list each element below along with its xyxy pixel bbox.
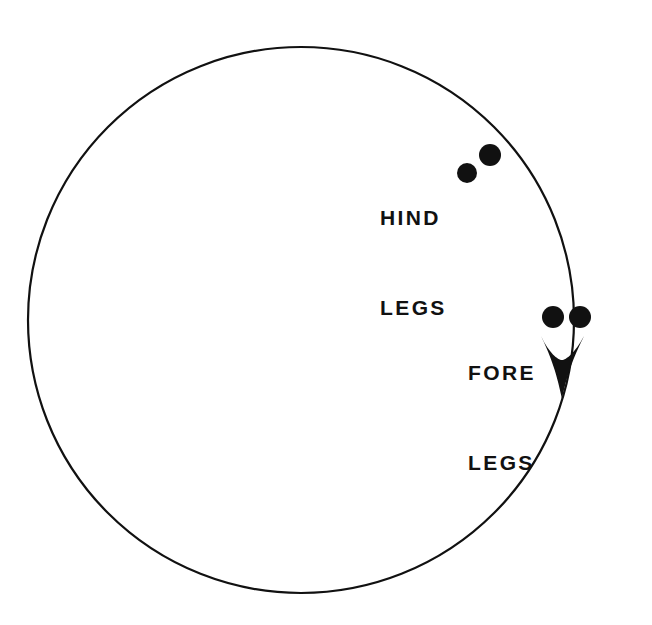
fore-legs-label-line2: LEGS (468, 448, 536, 478)
fore-legs-label: FORE LEGS (468, 298, 536, 538)
hind-leg-marker-outer (479, 144, 501, 166)
diagram-svg (0, 0, 652, 625)
fore-leg-marker-inner (542, 306, 564, 328)
fore-leg-marker-outer (569, 306, 591, 328)
hind-legs-label-line1: HIND (380, 203, 447, 233)
direction-arrowhead-icon (541, 336, 584, 399)
hind-legs-label-line2: LEGS (380, 293, 447, 323)
figure-canvas: HIND LEGS FORE LEGS (0, 0, 652, 625)
hind-leg-marker-inner (457, 163, 477, 183)
hind-legs-label: HIND LEGS (380, 143, 447, 383)
fore-legs-label-line1: FORE (468, 358, 536, 388)
